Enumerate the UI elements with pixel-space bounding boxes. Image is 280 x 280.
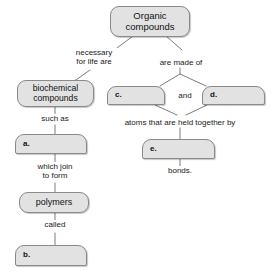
edge-label-atoms-held-together-by: atoms that are held together by bbox=[110, 118, 250, 127]
node-polymers[interactable]: polymers bbox=[19, 192, 89, 213]
node-polymers-label: polymers bbox=[36, 197, 73, 207]
edge-label-are-made-of: are made of bbox=[152, 58, 210, 67]
node-biochemical-compounds-label: biochemical compounds bbox=[33, 84, 78, 103]
edge-d-to-merge bbox=[186, 105, 207, 115]
edge-label-bonds: bonds. bbox=[155, 166, 205, 175]
edge-split-to-d bbox=[180, 74, 206, 86]
edge-label-such-as: such as bbox=[30, 114, 80, 123]
edge-label-and: and bbox=[170, 91, 200, 100]
edge-organic-to-arematdeof bbox=[166, 36, 182, 50]
concept-map-diagram: Organic compounds biochemical compounds … bbox=[0, 0, 280, 280]
node-blank-a[interactable]: a. bbox=[15, 134, 87, 154]
edge-label-called: called bbox=[32, 220, 78, 229]
node-blank-e-label: e. bbox=[143, 145, 214, 154]
edge-split-to-c bbox=[160, 74, 180, 86]
edge-c-to-merge bbox=[155, 105, 177, 115]
node-blank-c[interactable]: c. bbox=[107, 86, 165, 105]
edge-label-which-join-to-form: which join to form bbox=[25, 162, 85, 180]
edge-organic-to-necessary bbox=[117, 36, 133, 48]
node-biochemical-compounds[interactable]: biochemical compounds bbox=[17, 80, 94, 107]
node-organic-compounds[interactable]: Organic compounds bbox=[110, 6, 190, 37]
node-blank-b[interactable]: b. bbox=[15, 245, 87, 266]
edge-label-necessary-for-life-are: necessary for life are bbox=[63, 48, 125, 66]
node-blank-e[interactable]: e. bbox=[142, 139, 215, 159]
node-blank-a-label: a. bbox=[16, 140, 86, 149]
node-blank-c-label: c. bbox=[108, 91, 164, 100]
node-blank-d[interactable]: d. bbox=[202, 86, 265, 105]
node-blank-d-label: d. bbox=[203, 91, 264, 100]
node-blank-b-label: b. bbox=[16, 251, 86, 260]
node-organic-compounds-label: Organic compounds bbox=[125, 11, 174, 32]
